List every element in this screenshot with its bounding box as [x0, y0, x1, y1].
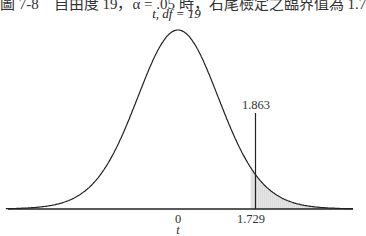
x-axis-label: t — [176, 223, 180, 236]
rejection-region — [251, 168, 353, 210]
density-curve — [6, 30, 353, 209]
observed-value-label: 1.863 — [242, 98, 270, 112]
tick-critical: 1.729 — [237, 212, 265, 226]
